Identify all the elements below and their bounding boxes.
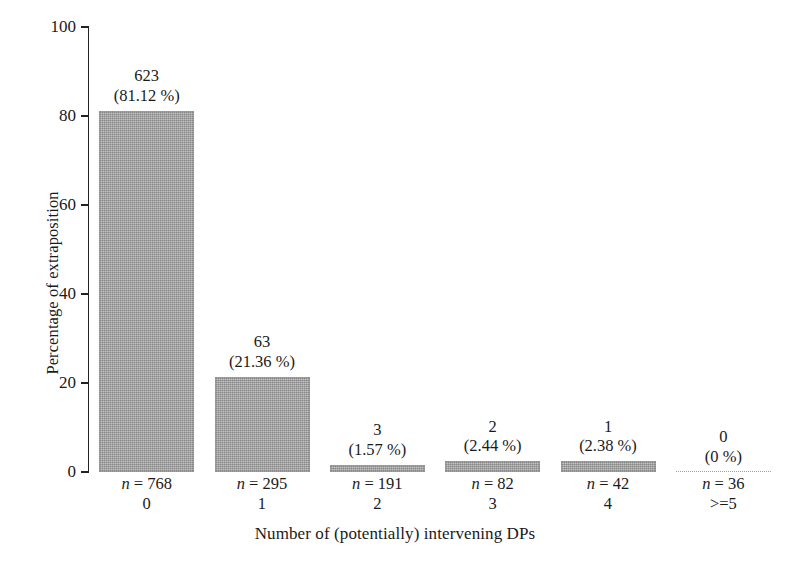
y-axis-tick [81,26,89,27]
category-label: 1 [204,494,319,514]
bar [215,377,310,472]
category-label: 0 [89,494,204,514]
bar-count: 623 [71,66,222,85]
bar-value-label: 0(0 %) [648,427,790,466]
bar-group: 63(21.36 %) [215,27,310,472]
category-label: 3 [435,494,550,514]
bar-percent: (0 %) [648,447,790,466]
bar [676,471,771,472]
category-label: 4 [550,494,665,514]
y-axis-tick-label: 0 [16,463,76,480]
y-axis-tick-label: 20 [16,374,76,391]
y-axis-tick [81,204,89,205]
bar-value-label: 63(21.36 %) [187,332,338,371]
bar-count: 0 [648,427,790,446]
y-axis-tick-label: 80 [16,107,76,124]
bar-group: 2(2.44 %) [445,27,540,472]
category-label: >=5 [666,494,781,514]
y-axis-tick-label: 40 [16,285,76,302]
sample-size-label: n = 295 [204,474,319,494]
bar [99,111,194,472]
bar-percent: (21.36 %) [187,352,338,371]
sample-size-label: n = 768 [89,474,204,494]
x-axis-category: n = 1912 [320,474,435,514]
bar-value-label: 623(81.12 %) [71,66,222,105]
bar [445,461,540,472]
bar-percent: (81.12 %) [71,86,222,105]
bar [330,465,425,472]
y-axis-tick [81,471,89,472]
bar [561,461,656,472]
x-axis-category: n = 823 [435,474,550,514]
bar-group: 1(2.38 %) [561,27,656,472]
bar-chart: Percentage of extraposition 020406080100… [0,0,790,566]
bar-group: 3(1.57 %) [330,27,425,472]
x-axis-category: n = 424 [550,474,665,514]
x-axis-title: Number of (potentially) intervening DPs [0,524,790,544]
y-axis-tick [81,115,89,116]
plot-area: 623(81.12 %)63(21.36 %)3(1.57 %)2(2.44 %… [89,27,781,472]
sample-size-label: n = 36 [666,474,781,494]
y-axis-title-container: Percentage of extraposition [2,0,38,500]
y-axis-tick [81,293,89,294]
y-axis-tick [81,382,89,383]
bar-group: 623(81.12 %) [99,27,194,472]
x-axis-category: n = 36>=5 [666,474,781,514]
sample-size-label: n = 82 [435,474,550,494]
sample-size-label: n = 42 [550,474,665,494]
y-axis-tick-label: 60 [16,196,76,213]
category-label: 2 [320,494,435,514]
x-axis-category: n = 2951 [204,474,319,514]
bar-group: 0(0 %) [676,27,771,472]
sample-size-label: n = 191 [320,474,435,494]
y-axis-title: Percentage of extraposition [36,0,70,566]
bar-count: 63 [187,332,338,351]
x-axis-category: n = 7680 [89,474,204,514]
y-axis-tick-label: 100 [16,18,76,35]
x-axis-labels: n = 7680n = 2951n = 1912n = 823n = 424n … [89,474,781,520]
